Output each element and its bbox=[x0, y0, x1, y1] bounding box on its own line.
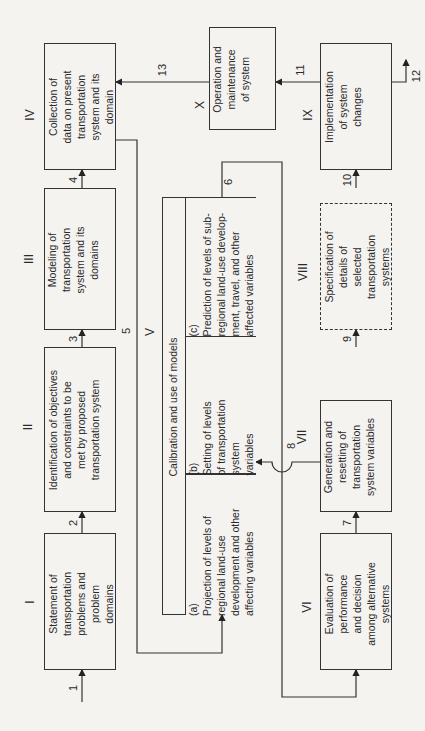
flow-9: 9 bbox=[341, 336, 353, 342]
stage-Va-box: (a) Projection of levels of regional lan… bbox=[185, 474, 256, 615]
stage-X-label: Operation and maintenance of system bbox=[210, 28, 277, 131]
stage-IX-numeral: IX bbox=[301, 109, 315, 120]
stage-II-label: Identification of objectives and constra… bbox=[46, 348, 118, 513]
flow-6: 6 bbox=[222, 179, 234, 185]
stage-Vc-id: (c) bbox=[187, 324, 199, 336]
flow-3: 3 bbox=[67, 336, 79, 342]
flow-1: 1 bbox=[67, 685, 79, 691]
stage-VII-numeral: VII bbox=[295, 430, 309, 445]
stage-I-box: Statement of transportation problems and… bbox=[44, 533, 116, 670]
stage-VIII-label: Specification of details of selected tra… bbox=[322, 204, 394, 331]
stage-Vc-box: (c) Prediction of levels of sub- regiona… bbox=[185, 198, 256, 336]
stage-Vc-text: Prediction of levels of sub- regional la… bbox=[201, 213, 255, 337]
stage-II-numeral: II bbox=[21, 424, 35, 431]
flow-7: 7 bbox=[341, 520, 353, 526]
stage-Va-id: (a) bbox=[187, 603, 199, 616]
stage-Vc-label: (c) Prediction of levels of sub- regiona… bbox=[186, 199, 257, 337]
stage-VIII-box: Specification of details of selected tra… bbox=[320, 203, 392, 330]
stage-II-box: Identification of objectives and constra… bbox=[44, 347, 116, 512]
stage-VI-numeral: VI bbox=[300, 601, 314, 612]
flow-5: 5 bbox=[120, 328, 132, 334]
stage-VII-label: Generation and resetting of transportati… bbox=[321, 401, 393, 513]
stage-V-title: Calibration and use of models bbox=[166, 207, 184, 607]
flow-12: 12 bbox=[410, 70, 422, 82]
stage-X-box: Operation and maintenance of system bbox=[209, 27, 276, 130]
stage-VII-box: Generation and resetting of transportati… bbox=[320, 400, 392, 512]
flow-11: 11 bbox=[294, 64, 306, 75]
stage-VI-box: Evaluation of performance and decision a… bbox=[320, 533, 392, 670]
stage-I-label: Statement of transportation problems and… bbox=[46, 536, 118, 673]
stage-IV-numeral: IV bbox=[23, 109, 37, 120]
flow-13: 13 bbox=[156, 64, 168, 76]
flow-8: 8 bbox=[285, 443, 297, 449]
stage-III-label: Modeling of transportation system and it… bbox=[45, 189, 117, 331]
stage-IV-label: Collection of data on present transporta… bbox=[46, 44, 118, 171]
stage-Va-label: (a) Projection of levels of regional lan… bbox=[186, 475, 257, 616]
stage-V-box: Calibration and use of models (a) Projec… bbox=[162, 197, 256, 615]
flow-10: 10 bbox=[341, 174, 353, 186]
stage-I-numeral: I bbox=[23, 600, 37, 603]
stage-Vb-label: (b) Setting of levels of transportation … bbox=[186, 338, 257, 476]
stage-IV-box: Collection of data on present transporta… bbox=[44, 43, 116, 170]
stage-III-box: Modeling of transportation system and it… bbox=[44, 188, 116, 330]
stage-Vb-id: (b) bbox=[187, 463, 199, 476]
stage-Va-text: Projection of levels of regional land-us… bbox=[201, 509, 255, 616]
stage-X-numeral: X bbox=[193, 101, 207, 109]
flow-4: 4 bbox=[67, 177, 79, 183]
stage-V-numeral: V bbox=[143, 328, 157, 336]
stage-Vb-text: Setting of levels of transportation syst… bbox=[201, 400, 255, 476]
stage-VIII-numeral: VIII bbox=[296, 263, 310, 281]
stage-IX-label: Implementation of system changes bbox=[322, 44, 394, 171]
stage-VI-label: Evaluation of performance and decision a… bbox=[322, 536, 394, 673]
stage-IX-box: Implementation of system changes bbox=[320, 43, 392, 170]
stage-III-numeral: III bbox=[22, 254, 36, 264]
flow-2: 2 bbox=[67, 520, 79, 526]
stage-Vb-box: (b) Setting of levels of transportation … bbox=[185, 336, 256, 474]
